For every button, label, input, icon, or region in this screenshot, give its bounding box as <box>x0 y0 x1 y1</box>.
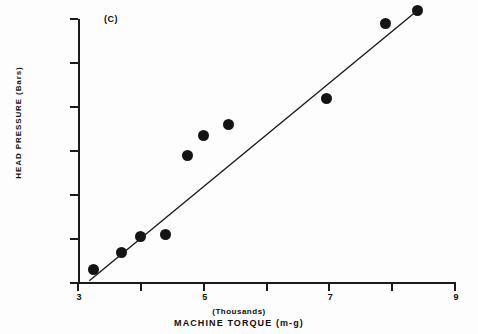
x-axis-tick-label: 9 <box>441 293 471 302</box>
y-axis-tick <box>70 106 78 108</box>
x-axis-title: (Thousands) MACHINE TORQUE (m-g) <box>0 306 478 329</box>
x-axis-units: (Thousands) <box>0 306 478 317</box>
x-axis-tick <box>391 284 393 291</box>
y-axis-tick <box>70 238 78 240</box>
panel-label: (C) <box>104 14 118 24</box>
y-axis-tick <box>70 62 78 64</box>
x-axis-tick-label: 7 <box>315 293 345 302</box>
y-axis-tick <box>70 150 78 152</box>
y-axis-line <box>78 19 80 284</box>
x-axis-tick <box>203 284 205 291</box>
x-axis-tick <box>140 284 142 291</box>
data-point <box>223 119 234 130</box>
data-point <box>380 18 391 29</box>
data-point <box>116 247 127 258</box>
data-point <box>321 93 332 104</box>
x-axis-tick-label: 3 <box>64 293 94 302</box>
x-axis-tick-label: 5 <box>190 293 220 302</box>
y-axis-tick <box>70 194 78 196</box>
x-axis-tick <box>266 284 268 291</box>
y-axis-tick <box>70 18 78 20</box>
data-point <box>182 150 193 161</box>
x-axis-name: MACHINE TORQUE (m-g) <box>0 317 478 329</box>
x-axis-tick <box>454 284 456 291</box>
data-point <box>135 231 146 242</box>
data-point <box>412 5 423 16</box>
x-axis-tick <box>77 284 79 291</box>
data-point <box>160 229 171 240</box>
data-point <box>88 264 99 275</box>
data-point <box>198 130 209 141</box>
y-axis-title: HEAD PRESSURE (Bars) <box>14 43 23 203</box>
x-axis-tick <box>328 284 330 291</box>
scatter-plot-figure: (C) HEAD PRESSURE (Bars) (Thousands) MAC… <box>0 0 478 334</box>
